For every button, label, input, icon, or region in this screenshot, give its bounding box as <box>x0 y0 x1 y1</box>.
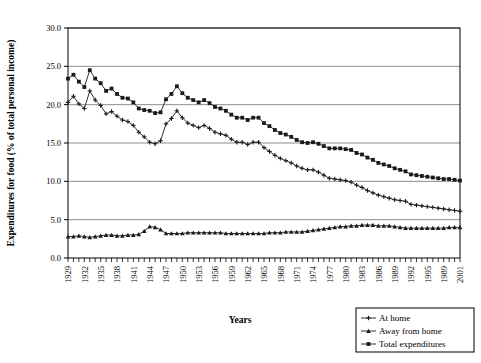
data-point-square <box>398 168 402 172</box>
data-point-square <box>344 147 348 151</box>
data-point-square <box>355 151 359 155</box>
data-point-square <box>371 158 375 162</box>
x-tick-label: 1980 <box>341 266 351 283</box>
x-tick-label: 1995 <box>423 266 433 283</box>
data-point-square <box>382 163 386 167</box>
data-point-square <box>164 97 168 101</box>
x-tick-label: 1956 <box>210 266 220 283</box>
data-point-square <box>175 84 179 88</box>
x-tick-label: 1962 <box>243 266 253 283</box>
y-tick-label: 30.0 <box>46 23 61 33</box>
y-tick-label: 10.0 <box>46 176 61 186</box>
data-point-square <box>142 108 146 112</box>
food-expenditures-line-chart: 0.05.010.015.020.025.030.0 1929193219351… <box>0 0 481 363</box>
x-tick-label: 1989 <box>439 266 449 283</box>
data-point-square <box>278 131 282 135</box>
data-point-square <box>425 175 429 179</box>
data-point-square <box>322 144 326 148</box>
x-tick-label: 1977 <box>325 266 335 283</box>
data-point-square <box>311 140 315 144</box>
x-tick-label: 1989 <box>390 266 400 283</box>
data-point-square <box>235 116 239 120</box>
data-point-square <box>289 135 293 139</box>
x-tick-label: 1983 <box>357 266 367 283</box>
data-point-square <box>393 166 397 170</box>
x-tick-label: 1968 <box>276 266 286 283</box>
data-point-square <box>436 176 440 180</box>
x-tick-label: 1947 <box>161 266 171 283</box>
data-point-square <box>66 77 70 81</box>
x-tick-label: 2001 <box>455 266 465 283</box>
data-point-square <box>338 146 342 150</box>
y-tick-label: 5.0 <box>50 215 61 225</box>
data-point-square <box>415 173 419 177</box>
data-point-square <box>376 161 380 165</box>
y-tick-label: 20.0 <box>46 100 61 110</box>
data-point-square <box>366 156 370 160</box>
data-point-square <box>442 177 446 181</box>
data-point-square <box>447 177 451 181</box>
data-point-square <box>208 101 212 105</box>
data-point-square <box>458 179 462 183</box>
x-tick-label: 1944 <box>145 265 155 283</box>
data-point-square <box>148 109 152 113</box>
data-point-square <box>99 81 103 85</box>
data-point-square <box>170 92 174 96</box>
data-point-square <box>453 178 457 182</box>
x-tick-label: 1932 <box>80 266 90 283</box>
data-point-square <box>131 100 135 104</box>
data-point-square <box>121 96 125 100</box>
data-point-square <box>273 128 277 132</box>
data-point-square <box>197 100 201 104</box>
y-tick-label: 15.0 <box>46 138 61 148</box>
data-point-square <box>306 141 310 145</box>
x-tick-label: 1971 <box>292 266 302 283</box>
legend-label: Total expenditures <box>379 339 446 349</box>
data-point-square <box>202 98 206 102</box>
data-point-square <box>72 73 76 77</box>
data-point-square <box>333 146 337 150</box>
legend-label: At home <box>379 313 410 323</box>
data-point-square <box>268 124 272 128</box>
data-point-square <box>360 153 364 157</box>
y-tick-label: 0.0 <box>50 253 61 263</box>
data-point-square <box>137 107 141 111</box>
x-tick-label: 1992 <box>406 266 416 283</box>
x-tick-label: 1953 <box>194 266 204 283</box>
data-point-square <box>186 96 190 100</box>
data-point-square <box>159 110 163 114</box>
data-point-square <box>219 107 223 111</box>
data-point-square <box>295 138 299 142</box>
data-point-square <box>115 92 119 96</box>
data-point-square <box>300 140 304 144</box>
x-tick-label: 1935 <box>96 266 106 283</box>
x-tick-label: 1959 <box>227 266 237 283</box>
data-point-square <box>180 91 184 95</box>
data-point-square <box>191 98 195 102</box>
data-point-square <box>251 116 255 120</box>
x-tick-label: 1938 <box>112 266 122 283</box>
chart-figure: 0.05.010.015.020.025.030.0 1929193219351… <box>0 0 481 363</box>
x-tick-label: 1929 <box>63 266 73 283</box>
data-point-square <box>110 87 114 91</box>
chart-legend: At homeAway from homeTotal expenditures <box>356 308 474 352</box>
x-tick-label: 1941 <box>129 266 139 283</box>
data-point-square <box>349 148 353 152</box>
data-point-square <box>213 105 217 109</box>
data-point-square <box>77 80 81 84</box>
data-point-square <box>420 174 424 178</box>
x-tick-label: 1974 <box>308 265 318 283</box>
data-point-square <box>367 342 371 346</box>
data-point-square <box>153 111 157 115</box>
x-tick-label: 1986 <box>374 266 384 283</box>
data-point-square <box>404 169 408 173</box>
data-point-square <box>284 133 288 137</box>
data-point-square <box>246 118 250 122</box>
data-point-square <box>240 116 244 120</box>
data-point-square <box>257 116 261 120</box>
data-point-square <box>327 146 331 150</box>
legend-label: Away from home <box>379 326 442 336</box>
data-point-square <box>431 176 435 180</box>
data-point-square <box>317 142 321 146</box>
data-point-square <box>104 89 108 93</box>
